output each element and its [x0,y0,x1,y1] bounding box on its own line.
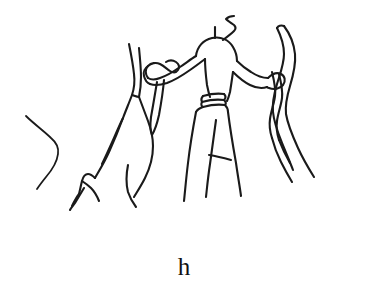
animal-figure-left [70,44,153,210]
line-drawing [0,0,368,240]
figure-container: h [0,0,368,297]
serpent-form-right [270,26,314,182]
central-human-figure [144,16,285,201]
stray-arc-left [26,116,58,189]
figure-caption: h [0,252,368,282]
